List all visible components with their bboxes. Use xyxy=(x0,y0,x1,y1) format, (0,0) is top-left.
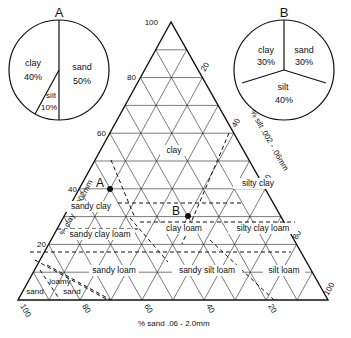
pie-b-silt-pct: 40% xyxy=(275,95,293,105)
soil-texture-diagram: A clay 40% sand 50% silt 10% B clay 30% … xyxy=(0,0,351,338)
pie-a-silt-pct: 10% xyxy=(41,103,57,112)
region-clay-loam: clay loam xyxy=(166,223,202,233)
pie-a-sand-label: sand xyxy=(72,62,92,72)
svg-text:100: 100 xyxy=(145,18,159,27)
svg-text:60: 60 xyxy=(142,303,155,316)
pie-b-silt-label: silt xyxy=(278,82,289,92)
region-sandy-loam: sandy loam xyxy=(92,265,135,275)
pie-a-clay-label: clay xyxy=(25,58,42,68)
region-sandy-clay: sandy clay xyxy=(71,201,112,211)
svg-text:100: 100 xyxy=(18,303,33,320)
region-silt-loam: silt loam xyxy=(268,265,299,275)
sand-axis-label: % sand .06 - 2.0mm xyxy=(138,319,210,328)
region-loamy-sand-line2: sand xyxy=(63,287,80,296)
region-loamy-sand-line1: loamy xyxy=(49,277,70,286)
svg-text:20: 20 xyxy=(37,240,46,249)
pie-a-silt-label: silt xyxy=(46,91,57,100)
region-sandy-silt-loam: sandy silt loam xyxy=(179,265,235,275)
svg-text:80: 80 xyxy=(127,73,136,82)
point-a-marker xyxy=(107,186,113,192)
ternary-grid xyxy=(33,50,312,300)
pie-b-divider xyxy=(284,70,326,83)
region-silty-clay-loam: silty clay loam xyxy=(237,223,290,233)
svg-text:20: 20 xyxy=(266,303,279,316)
region-clay: clay xyxy=(166,145,182,155)
pie-a-clay-pct: 40% xyxy=(24,72,42,82)
region-sand: sand xyxy=(26,287,43,296)
pie-b-sand-label: sand xyxy=(294,45,314,55)
pie-b-title: B xyxy=(280,5,289,20)
region-sandy-clay-loam: sandy clay loam xyxy=(70,229,131,239)
sand-ticks: 100 80 60 40 20 xyxy=(18,303,279,320)
pie-b-sand-pct: 30% xyxy=(295,57,313,67)
svg-text:20: 20 xyxy=(199,60,212,73)
svg-text:40: 40 xyxy=(230,116,243,129)
pie-a-sand-pct: 50% xyxy=(73,76,91,86)
pie-chart-b: B clay 30% sand 30% silt 40% xyxy=(234,5,334,120)
pie-a-title: A xyxy=(55,5,64,20)
pie-b-clay-label: clay xyxy=(258,45,275,55)
svg-text:80: 80 xyxy=(80,303,93,316)
point-a-label: A xyxy=(96,176,104,190)
svg-text:40: 40 xyxy=(68,185,77,194)
svg-text:60: 60 xyxy=(97,129,106,138)
pie-b-clay-pct: 30% xyxy=(257,57,275,67)
point-b-label: B xyxy=(172,204,180,218)
svg-text:40: 40 xyxy=(204,303,217,316)
point-b-marker xyxy=(185,213,191,219)
region-silty-clay: silty clay xyxy=(242,178,275,188)
pie-chart-a: A clay 40% sand 50% silt 10% xyxy=(9,5,109,120)
svg-text:100: 100 xyxy=(322,280,337,297)
